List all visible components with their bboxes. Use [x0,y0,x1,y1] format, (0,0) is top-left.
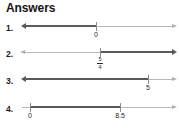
arrow-right-icon-1 [172,24,177,28]
answers-panel: Answers 1. 0 2. 5 4 3. [0,0,179,133]
answer-number-2: 2. [6,50,13,59]
solution-ray-3 [26,78,148,80]
solution-segment-4 [30,106,120,108]
arrow-right-icon-2 [172,49,177,55]
arrow-left-icon-2 [20,50,25,54]
arrow-left-icon-3 [21,76,26,82]
tick-mark-4-0 [30,103,31,112]
arrow-right-icon-4 [172,105,177,109]
number-line-4: 0 8.5 [20,101,178,115]
number-line-1: 0 [20,20,178,34]
solution-ray-2 [100,51,174,53]
fraction-numerator: 5 [98,56,101,62]
arrow-right-icon-3 [172,77,177,81]
tick-label-2-0: 5 4 [97,56,103,70]
fraction-denominator: 4 [98,64,101,70]
tick-label-4-0: 0 [28,112,32,120]
tick-mark-1-0 [96,22,97,31]
tick-label-1-0: 0 [94,31,98,39]
tick-label-4-1: 8.5 [115,112,125,120]
number-line-3: 5 [20,73,178,87]
answer-number-3: 3. [6,77,13,86]
answer-number-1: 1. [6,24,13,33]
tick-label-3-0: 5 [146,84,150,92]
solution-ray-1 [26,25,96,27]
tick-mark-3-0 [148,75,149,84]
page-title: Answers [6,1,55,15]
number-line-2: 5 4 [20,46,178,60]
arrow-left-icon-1 [21,23,26,29]
answer-number-4: 4. [6,105,13,114]
tick-mark-4-1 [120,103,121,112]
